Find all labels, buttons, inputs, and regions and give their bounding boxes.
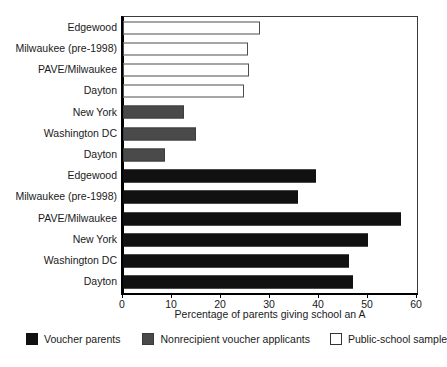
y-axis-label: PAVE/Milwaukee — [38, 64, 117, 75]
bar-row — [123, 250, 417, 271]
legend-item-nonrecipient-applicants: Nonrecipient voucher applicants — [142, 333, 309, 345]
legend-swatch-white-icon — [330, 333, 342, 345]
y-axis-label: Dayton — [84, 149, 117, 160]
y-axis-label: Washington DC — [44, 255, 117, 266]
y-axis-label: Washington DC — [44, 128, 117, 139]
bar-row — [123, 38, 417, 59]
bar — [123, 85, 244, 98]
legend-label-public-school-sample: Public-school sample — [348, 333, 447, 345]
y-axis-label: New York — [73, 107, 117, 118]
bar-row — [123, 229, 417, 250]
bar-row — [123, 17, 417, 38]
bar-row — [123, 144, 417, 165]
y-axis-label: Edgewood — [67, 170, 117, 181]
y-axis-category-labels: EdgewoodMilwaukee (pre-1998)PAVE/Milwauk… — [0, 17, 117, 293]
bars-container — [123, 17, 417, 293]
y-axis-label: Milwaukee (pre-1998) — [15, 43, 117, 54]
legend-swatch-black-icon — [26, 333, 38, 345]
bar — [123, 233, 368, 246]
bar-row — [123, 272, 417, 293]
bar — [123, 64, 249, 77]
bar-row — [123, 187, 417, 208]
bar — [123, 21, 260, 34]
y-axis-label: New York — [73, 234, 117, 245]
y-axis-label: Dayton — [84, 85, 117, 96]
legend-label-voucher-parents: Voucher parents — [44, 333, 120, 345]
y-axis-label: Milwaukee (pre-1998) — [15, 191, 117, 202]
bar — [123, 42, 248, 55]
x-axis-title: Percentage of parents giving school an A — [122, 308, 418, 320]
bar — [123, 191, 298, 204]
chart-legend: Voucher parents Nonrecipient voucher app… — [26, 333, 426, 345]
bar — [123, 106, 184, 119]
x-axis-ticks: 0102030405060 — [0, 293, 437, 309]
bar — [123, 170, 316, 183]
legend-item-public-school-sample: Public-school sample — [330, 333, 447, 345]
bar — [123, 276, 353, 289]
legend-swatch-gray-icon — [142, 333, 154, 345]
y-axis-label: Edgewood — [67, 22, 117, 33]
bar-row — [123, 166, 417, 187]
bar-row — [123, 123, 417, 144]
y-axis-label: PAVE/Milwaukee — [38, 213, 117, 224]
bar — [123, 212, 401, 225]
bar — [123, 127, 196, 140]
bar-row — [123, 81, 417, 102]
bar — [123, 255, 349, 268]
bar-row — [123, 59, 417, 80]
legend-label-nonrecipient-applicants: Nonrecipient voucher applicants — [160, 333, 309, 345]
legend-item-voucher-parents: Voucher parents — [26, 333, 120, 345]
bar-row — [123, 208, 417, 229]
y-axis-label: Dayton — [84, 276, 117, 287]
bar-row — [123, 102, 417, 123]
bar — [123, 148, 165, 161]
